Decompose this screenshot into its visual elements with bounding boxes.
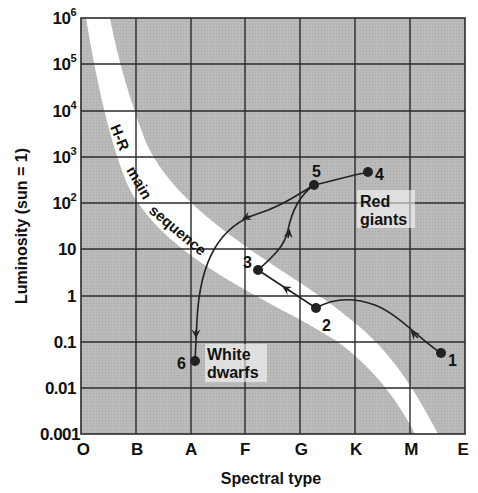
svg-text:A: A: [185, 440, 197, 459]
x-axis-ticks: O B A F G K M E: [77, 440, 469, 459]
svg-text:Red: Red: [360, 193, 390, 210]
svg-text:0.001: 0.001: [40, 425, 80, 444]
svg-text:G: G: [295, 440, 308, 459]
svg-text:M: M: [404, 440, 418, 459]
svg-text:6: 6: [177, 355, 186, 372]
svg-text:3: 3: [243, 254, 252, 271]
point-6: [190, 356, 200, 366]
svg-text:1: 1: [67, 287, 76, 306]
svg-text:105: 105: [52, 52, 76, 74]
svg-text:0.1: 0.1: [54, 333, 76, 352]
svg-text:1: 1: [448, 352, 457, 369]
y-axis-ticks: 106 105 104 103 102 10 1 0.1 0.01 0.001: [40, 6, 80, 444]
point-3: [253, 265, 263, 275]
point-4: [363, 167, 373, 177]
svg-text:103: 103: [52, 145, 76, 167]
svg-text:O: O: [77, 440, 90, 459]
annotation-white-dwarfs: White dwarfs: [205, 344, 267, 382]
hr-diagram-chart: H-R main sequence 1 2 3 5 4 6: [0, 0, 478, 493]
svg-text:106: 106: [52, 6, 76, 28]
svg-text:K: K: [350, 440, 363, 459]
svg-text:2: 2: [322, 317, 331, 334]
svg-text:10: 10: [58, 240, 76, 259]
point-1: [436, 348, 446, 358]
svg-text:104: 104: [52, 99, 77, 121]
x-axis-label: Spectral type: [221, 470, 322, 487]
svg-text:B: B: [131, 440, 143, 459]
annotation-red-giants: Red giants: [357, 190, 415, 228]
svg-text:giants: giants: [360, 211, 407, 228]
point-2: [311, 303, 321, 313]
point-5: [309, 180, 319, 190]
svg-text:dwarfs: dwarfs: [207, 364, 259, 381]
svg-text:E: E: [458, 440, 469, 459]
svg-text:4: 4: [375, 166, 384, 183]
svg-text:5: 5: [312, 163, 321, 180]
svg-text:F: F: [240, 440, 250, 459]
svg-text:0.01: 0.01: [45, 379, 76, 398]
svg-text:White: White: [207, 346, 251, 363]
svg-text:102: 102: [52, 191, 76, 213]
y-axis-label: Luminosity (sun = 1): [13, 148, 30, 304]
